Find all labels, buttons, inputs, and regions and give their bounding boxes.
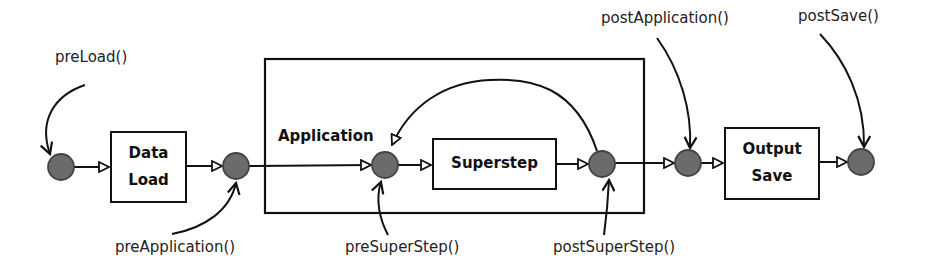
- postsuperstep-arrow: [604, 180, 609, 235]
- preload-hook-label: preLoad(): [55, 48, 127, 66]
- node-post-application: [675, 150, 701, 176]
- preapplication-hook-label: preApplication(): [115, 238, 235, 256]
- application-label: Application: [278, 127, 374, 145]
- flow-edge: [249, 165, 371, 166]
- postapplication-hook-label: postApplication(): [601, 9, 729, 27]
- output-save-line1: Output: [725, 136, 819, 163]
- superstep-label: Superstep: [433, 150, 556, 177]
- superstep-line1: Superstep: [433, 150, 556, 177]
- node-start: [48, 154, 74, 180]
- presuperstep-arrow: [378, 182, 388, 235]
- node-post-superstep: [589, 151, 615, 177]
- postsave-arrow: [820, 34, 864, 147]
- postsuperstep-hook-label: postSuperStep(): [553, 238, 675, 256]
- data-load-line2: Load: [111, 167, 186, 194]
- node-pre-superstep: [372, 152, 398, 178]
- data-load-label: Data Load: [111, 140, 186, 194]
- preload-arrow: [46, 85, 85, 154]
- postapplication-arrow: [657, 38, 690, 148]
- output-save-line2: Save: [725, 163, 819, 190]
- node-end: [848, 149, 874, 175]
- output-save-label: Output Save: [725, 136, 819, 190]
- node-after-load: [223, 153, 249, 179]
- postsave-hook-label: postSave(): [798, 7, 879, 25]
- data-load-line1: Data: [111, 140, 186, 167]
- presuperstep-hook-label: preSuperStep(): [345, 238, 459, 256]
